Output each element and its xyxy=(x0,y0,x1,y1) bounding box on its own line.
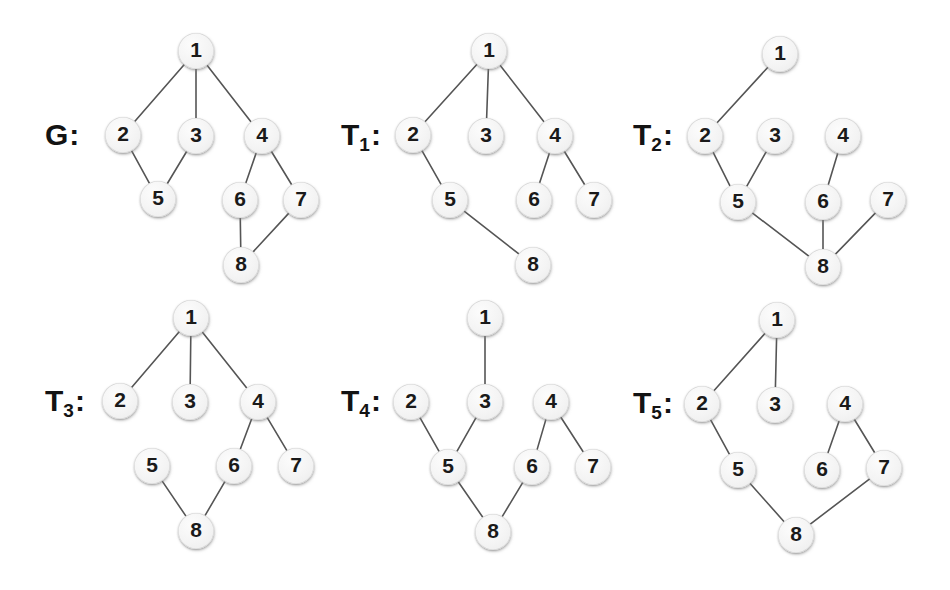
graph-node-t3-8: 8 xyxy=(178,513,214,549)
graph-node-t3-4: 4 xyxy=(240,384,276,420)
graph-node-label: 2 xyxy=(699,123,711,147)
graph-node-g-3: 3 xyxy=(178,118,214,154)
graph-edge xyxy=(746,150,768,189)
panel-label-main: T xyxy=(341,384,359,417)
graph-edge xyxy=(748,482,785,524)
graph-node-t1-8: 8 xyxy=(515,247,551,283)
panel-label-t2: T2: xyxy=(633,120,673,150)
graph-node-g-5: 5 xyxy=(140,181,176,217)
panel-label-colon: : xyxy=(663,386,673,419)
graph-node-t5-6: 6 xyxy=(804,452,840,488)
panel-label-t4: T4: xyxy=(341,386,381,416)
graph-edge xyxy=(559,415,584,454)
graph-node-t1-4: 4 xyxy=(537,118,573,154)
graph-node-t2-8: 8 xyxy=(805,249,841,285)
graph-node-label: 8 xyxy=(487,519,499,543)
graph-node-label: 5 xyxy=(732,189,744,213)
graph-edge xyxy=(266,415,288,452)
graph-node-label: 2 xyxy=(114,388,126,412)
graph-edge xyxy=(499,63,546,124)
graph-edge xyxy=(462,210,521,256)
graph-node-label: 1 xyxy=(774,41,786,65)
graph-node-label: 7 xyxy=(588,187,600,211)
graph-edge xyxy=(715,65,769,124)
graph-node-g-4: 4 xyxy=(244,118,280,154)
panel-label-main: T xyxy=(633,118,651,151)
graph-edge xyxy=(190,334,191,387)
graph-node-label: 8 xyxy=(790,522,802,546)
graph-node-label: 2 xyxy=(696,391,708,415)
graph-node-label: 4 xyxy=(252,389,264,413)
graph-node-label: 7 xyxy=(587,454,599,478)
graph-node-label: 4 xyxy=(545,389,557,413)
graph-edge xyxy=(457,480,484,520)
graph-node-label: 2 xyxy=(405,389,417,413)
graph-node-t2-5: 5 xyxy=(720,184,756,220)
graph-node-label: 8 xyxy=(817,254,829,278)
graph-edges-layer xyxy=(0,0,950,590)
panel-label-subscript: 1 xyxy=(359,134,370,155)
panel-label-colon: : xyxy=(69,118,79,151)
graph-node-t3-7: 7 xyxy=(278,448,314,484)
graph-edge xyxy=(161,479,188,518)
graph-node-label: 3 xyxy=(184,389,196,413)
panel-label-colon: : xyxy=(371,118,381,151)
graph-node-label: 6 xyxy=(526,454,538,478)
graph-node-t1-5: 5 xyxy=(432,182,468,218)
graph-edge xyxy=(166,149,188,185)
graph-node-label: 8 xyxy=(235,252,247,276)
graph-node-label: 7 xyxy=(290,453,302,477)
graph-node-t3-1: 1 xyxy=(173,300,209,336)
graph-node-t5-3: 3 xyxy=(757,387,793,423)
graph-node-t5-5: 5 xyxy=(720,452,756,488)
graph-edge xyxy=(501,480,524,518)
graph-node-t4-2: 2 xyxy=(393,384,429,420)
panel-label-subscript: 4 xyxy=(359,400,370,421)
graph-node-t4-5: 5 xyxy=(430,449,466,485)
graph-node-t3-2: 2 xyxy=(102,383,138,419)
graph-edge xyxy=(130,330,181,389)
graph-edge xyxy=(563,149,586,187)
graph-node-label: 3 xyxy=(769,392,781,416)
graph-edge xyxy=(712,332,766,393)
panel-label-main: T xyxy=(633,386,651,419)
graph-node-t5-7: 7 xyxy=(866,450,902,486)
graph-edge xyxy=(487,66,489,120)
graph-node-t3-6: 6 xyxy=(216,448,252,484)
graph-node-label: 1 xyxy=(771,307,783,331)
graph-node-g-7: 7 xyxy=(283,182,319,218)
panel-label-subscript: 2 xyxy=(651,134,662,155)
graph-node-g-8: 8 xyxy=(223,247,259,283)
graph-edge xyxy=(775,336,776,390)
graph-node-label: 5 xyxy=(146,453,158,477)
graph-node-label: 4 xyxy=(256,123,268,147)
panel-label-colon: : xyxy=(371,384,381,417)
graph-node-label: 3 xyxy=(190,123,202,147)
graph-edge xyxy=(245,151,257,186)
graph-edge xyxy=(853,417,876,455)
graph-node-g-6: 6 xyxy=(222,182,258,218)
graph-node-label: 6 xyxy=(234,187,246,211)
graph-edge xyxy=(827,419,840,456)
graph-node-t1-7: 7 xyxy=(576,182,612,218)
graph-node-label: 3 xyxy=(479,389,491,413)
graph-edge xyxy=(204,479,226,517)
graph-node-label: 1 xyxy=(483,38,495,62)
graph-node-t1-6: 6 xyxy=(516,182,552,218)
graph-node-label: 6 xyxy=(816,457,828,481)
graph-node-t4-3: 3 xyxy=(467,384,503,420)
graph-edge xyxy=(206,63,253,124)
graph-node-t2-3: 3 xyxy=(757,118,793,154)
graph-node-label: 5 xyxy=(442,454,454,478)
graph-node-label: 1 xyxy=(479,305,491,329)
panel-label-main: G xyxy=(45,118,68,151)
graph-node-t3-5: 5 xyxy=(134,448,170,484)
panel-label-subscript: 5 xyxy=(651,402,662,423)
graph-node-t2-7: 7 xyxy=(870,182,906,218)
panel-label-subscript: 3 xyxy=(63,400,74,421)
graph-edge xyxy=(750,211,810,257)
panel-label-main: T xyxy=(45,384,63,417)
graph-edge xyxy=(240,216,241,250)
graph-node-t4-7: 7 xyxy=(575,449,611,485)
graph-node-t1-1: 1 xyxy=(471,33,507,69)
